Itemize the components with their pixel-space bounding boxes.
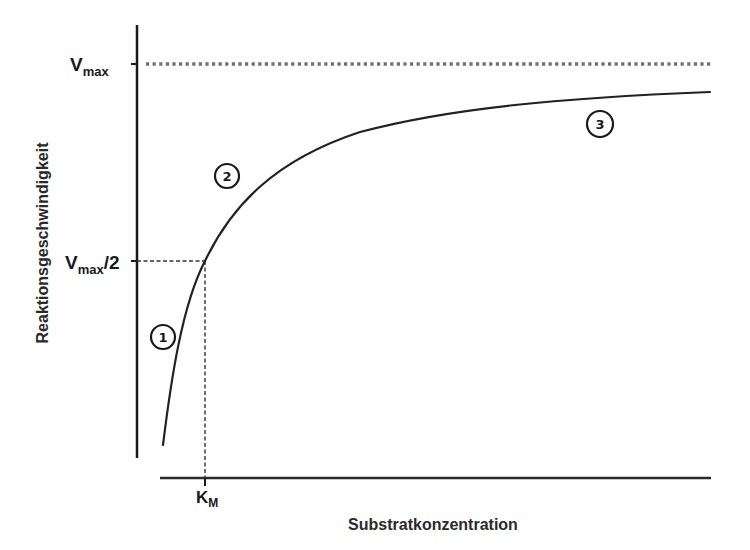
michaelis-menten-chart: Vmax Vmax/2 KM Substratkonzentration Rea… bbox=[0, 0, 750, 550]
michaelis-menten-curve bbox=[163, 92, 710, 445]
vmax-label: Vmax bbox=[70, 54, 109, 79]
marker-2-number: 2 bbox=[222, 169, 231, 184]
marker-1-number: 1 bbox=[158, 330, 167, 345]
y-axis-title: Reaktionsgeschwindigkeit bbox=[34, 142, 51, 344]
marker-3: 3 bbox=[587, 111, 613, 137]
marker-3-number: 3 bbox=[595, 117, 604, 132]
marker-2: 2 bbox=[215, 164, 239, 188]
km-label: KM bbox=[196, 488, 218, 510]
x-axis-title: Substratkonzentration bbox=[348, 516, 518, 533]
vmax-half-label: Vmax/2 bbox=[65, 252, 120, 277]
marker-1: 1 bbox=[151, 325, 175, 349]
